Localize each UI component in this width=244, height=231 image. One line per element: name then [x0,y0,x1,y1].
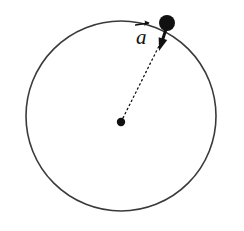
center-point [117,118,125,126]
circular-motion-diagram [0,0,244,231]
physics-figure: a [0,0,244,231]
figure-background [0,0,244,231]
acceleration-vector-label: a [136,20,147,48]
particle [159,15,175,31]
acceleration-symbol: a [136,25,147,49]
